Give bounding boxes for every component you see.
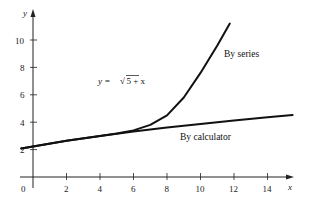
svg-text:10: 10 bbox=[196, 184, 206, 194]
svg-text:6: 6 bbox=[20, 90, 25, 100]
svg-text:2: 2 bbox=[20, 145, 25, 155]
svg-text:0: 0 bbox=[21, 184, 26, 194]
y-tick-labels: 2 4 6 8 10 bbox=[15, 36, 25, 156]
svg-text:8: 8 bbox=[165, 184, 170, 194]
series-label: By series bbox=[224, 49, 259, 59]
y-axis-arrow bbox=[31, 9, 36, 17]
svg-text:2: 2 bbox=[64, 184, 69, 194]
x-tick-labels: 0 2 4 6 8 10 12 14 bbox=[21, 184, 272, 194]
formula-annotation: y = √ 5 + x bbox=[97, 76, 146, 87]
svg-text:6: 6 bbox=[131, 184, 136, 194]
svg-text:y =: y = bbox=[97, 76, 110, 86]
svg-text:10: 10 bbox=[15, 36, 25, 46]
svg-text:4: 4 bbox=[20, 118, 25, 128]
svg-text:4: 4 bbox=[98, 184, 103, 194]
calculator-label: By calculator bbox=[180, 132, 232, 142]
y-axis-label: y bbox=[22, 8, 27, 18]
series-curve bbox=[21, 24, 230, 149]
svg-text:12: 12 bbox=[229, 184, 238, 194]
svg-text:14: 14 bbox=[263, 184, 273, 194]
x-axis-label: x bbox=[287, 182, 292, 192]
chart: y x 2 4 6 8 10 0 2 4 6 8 10 12 14 bbox=[0, 0, 309, 203]
formula-lhs: y = bbox=[97, 76, 110, 86]
svg-text:√: √ bbox=[120, 76, 125, 86]
formula-radicand: 5 + x bbox=[127, 76, 146, 86]
svg-text:8: 8 bbox=[20, 63, 25, 73]
x-axis-arrow bbox=[286, 175, 294, 180]
